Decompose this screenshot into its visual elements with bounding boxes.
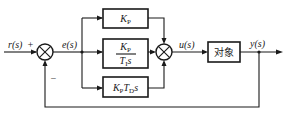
arrow-head <box>202 50 208 55</box>
arrow-head <box>276 50 283 55</box>
svg-text:对象: 对象 <box>214 46 234 58</box>
arrow-head <box>97 50 103 55</box>
arrow-head <box>162 60 167 66</box>
summing-junction-2 <box>156 44 172 60</box>
pid-block-diagram: r(s) + − e(s) KP KP TIs <box>0 0 287 115</box>
output-label: y(s) <box>249 38 266 50</box>
summing-junction-1 <box>37 44 53 60</box>
arrow-head <box>97 86 103 91</box>
block-derivative: KPTDs <box>103 77 148 97</box>
plus-sign: + <box>27 39 34 50</box>
arrow-head <box>162 38 167 44</box>
control-label: u(s) <box>179 39 195 51</box>
arrow-head <box>150 50 156 55</box>
arrow-head <box>43 60 48 66</box>
arrow-head <box>97 16 103 21</box>
block-proportional: KP <box>103 9 148 28</box>
block-integral: KP TIs <box>103 39 148 68</box>
minus-sign: − <box>50 73 57 84</box>
input-label: r(s) <box>8 39 23 51</box>
arrow-head <box>31 50 37 55</box>
block-plant: 对象 <box>208 42 240 62</box>
error-label: e(s) <box>62 39 78 51</box>
